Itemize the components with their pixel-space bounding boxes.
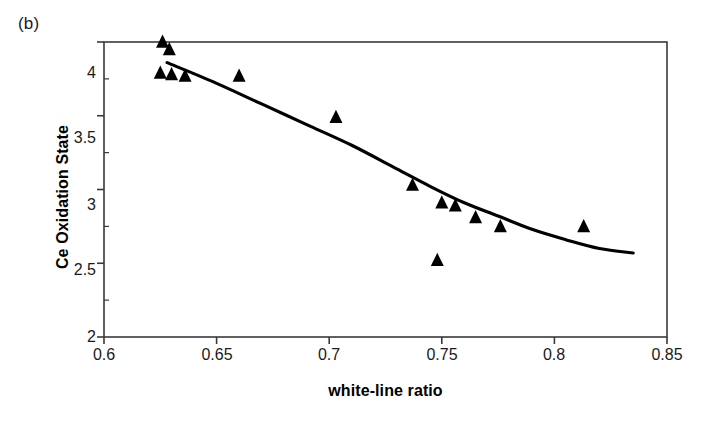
- plot-frame: [104, 42, 667, 337]
- data-point-marker: [156, 35, 169, 48]
- figure-panel-b: (b) Ce Oxidation State white-line ratio …: [0, 0, 710, 423]
- x-tick-marks: [104, 337, 667, 344]
- plot-area: [0, 0, 710, 423]
